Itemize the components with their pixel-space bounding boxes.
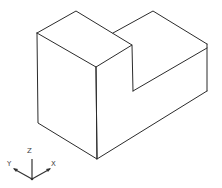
front-vertical-edge (96, 67, 97, 159)
bottom-right-edge (97, 91, 207, 159)
low-section-top-face (113, 11, 207, 44)
ucs-axis-icon (13, 159, 51, 180)
tall-block-left-face (37, 33, 97, 159)
isometric-drawing (0, 0, 222, 188)
notch-floor-edge (133, 48, 207, 91)
origin-dot (31, 178, 34, 181)
tall-block-top-face (37, 11, 132, 67)
z-axis-label: Z (27, 147, 32, 155)
l-shaped-block (37, 11, 207, 159)
tall-block-inner-vertical-edge (132, 45, 133, 91)
y-axis-label: Y (7, 160, 11, 168)
x-axis-label: X (51, 160, 56, 168)
